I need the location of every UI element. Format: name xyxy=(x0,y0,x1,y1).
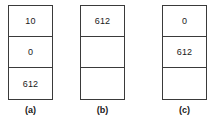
stack-c-cell-1: 612 xyxy=(163,37,206,68)
stack-b-cell-2 xyxy=(81,68,124,99)
panel-c-label: (c) xyxy=(162,105,207,115)
panel-c: 0 612 xyxy=(162,5,207,100)
stack-b: 612 xyxy=(80,5,125,100)
stack-diagram-figure: 10 0 612 (a) 612 (b) 0 612 (c) xyxy=(0,0,213,127)
stack-b-cell-1 xyxy=(81,37,124,68)
panel-a: 10 0 612 xyxy=(8,5,53,100)
stack-b-cell-0: 612 xyxy=(81,6,124,37)
panel-a-label: (a) xyxy=(8,105,53,115)
panel-b: 612 xyxy=(80,5,125,100)
stack-a: 10 0 612 xyxy=(8,5,53,100)
stack-c-cell-2 xyxy=(163,68,206,99)
stack-a-cell-0: 10 xyxy=(9,6,52,37)
panel-b-label: (b) xyxy=(80,105,125,115)
stack-c-cell-0: 0 xyxy=(163,6,206,37)
stack-a-cell-1: 0 xyxy=(9,37,52,68)
stack-c: 0 612 xyxy=(162,5,207,100)
stack-a-cell-2: 612 xyxy=(9,68,52,99)
